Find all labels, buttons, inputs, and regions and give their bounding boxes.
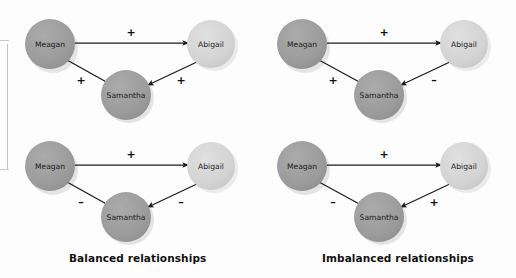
edge-meagan-samantha [67,182,110,206]
sign-meagan-samantha: + [76,74,85,87]
node-label-abigail: Abigail [451,162,477,171]
sign-meagan-samantha: + [328,74,337,87]
edge-abigail-samantha [148,61,199,85]
edge-abigail-samantha [401,183,452,207]
panel-balanced-two-negative: Meagan Abigail Samantha + – – [0,133,258,265]
sign-meagan-abigail: + [379,26,388,39]
node-label-meagan: Meagan [35,162,65,171]
node-label-samantha: Samantha [107,91,146,100]
edge-abigail-samantha [401,61,452,85]
edge-abigail-samantha [148,183,199,207]
caption-balanced-relationships: Balanced relationships [69,252,206,264]
node-label-abigail: Abigail [198,162,224,171]
balance-theory-figure: Meagan Abigail Samantha + + + [0,0,516,278]
sign-meagan-abigail: + [379,148,388,161]
sign-meagan-samantha: – [330,196,336,209]
node-label-abigail: Abigail [451,40,477,49]
node-label-samantha: Samantha [360,213,399,222]
node-label-samantha: Samantha [360,91,399,100]
node-label-abigail: Abigail [198,40,224,49]
sign-meagan-abigail: + [126,26,135,39]
node-label-samantha: Samantha [107,213,146,222]
sign-abigail-samantha: – [178,196,184,209]
sign-abigail-samantha: – [431,74,437,87]
caption-imbalanced-relationships: Imbalanced relationships [322,252,474,264]
sign-abigail-samantha: + [429,196,438,209]
panel-imbalanced-mixed: Meagan Abigail Samantha + – + [258,133,516,265]
edge-meagan-samantha [67,60,110,84]
panel-balanced-all-positive: Meagan Abigail Samantha + + + [0,2,258,134]
sign-meagan-abigail: + [126,148,135,161]
edge-meagan-samantha [319,60,363,84]
edge-meagan-samantha [319,182,363,206]
panel-imbalanced-one-negative: Meagan Abigail Samantha + + – [258,2,516,134]
node-label-meagan: Meagan [35,40,65,49]
node-label-meagan: Meagan [287,162,317,171]
sign-meagan-samantha: – [78,196,84,209]
sign-abigail-samantha: + [176,74,185,87]
node-label-meagan: Meagan [287,40,317,49]
